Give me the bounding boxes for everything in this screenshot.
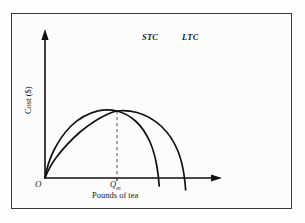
ltc-curve-label: LTC [182,33,199,42]
stc-curve-label: STC [142,33,158,42]
figure-root: STC LTC O Qm Pounds of tea Cost ($) [0,0,305,223]
y-axis-label: Cost ($) [24,70,33,130]
x-axis-label: Pounds of tea [92,191,138,200]
x-axis [45,174,222,181]
origin-label: O [35,180,42,189]
stc-curve [45,110,159,186]
y-axis [41,29,48,178]
